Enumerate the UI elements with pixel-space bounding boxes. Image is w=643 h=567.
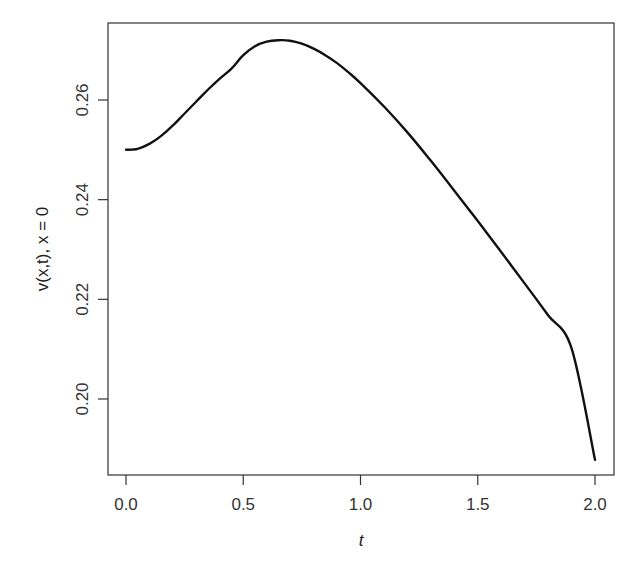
x-axis: 0.00.51.01.52.0 (114, 475, 607, 514)
x-tick-label: 1.5 (466, 495, 490, 514)
y-tick-label: 0.26 (73, 83, 92, 116)
data-line (126, 40, 595, 460)
y-tick-label: 0.22 (73, 283, 92, 316)
x-tick-label: 2.0 (583, 495, 607, 514)
x-tick-label: 0.0 (114, 495, 138, 514)
x-axis-label: t (359, 531, 365, 550)
y-tick-label: 0.20 (73, 382, 92, 415)
line-chart: 0.00.51.01.52.0 0.200.220.240.26 t v(x,t… (0, 0, 643, 567)
x-tick-label: 1.0 (349, 495, 373, 514)
x-tick-label: 0.5 (231, 495, 255, 514)
plot-frame (108, 23, 614, 475)
y-axis: 0.200.220.240.26 (73, 83, 108, 415)
y-tick-label: 0.24 (73, 183, 92, 216)
y-axis-label: v(x,t), x = 0 (33, 207, 52, 292)
